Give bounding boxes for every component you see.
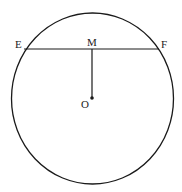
- label-o: O: [81, 98, 89, 110]
- label-m: M: [87, 36, 97, 48]
- label-e: E: [15, 38, 22, 50]
- label-f: F: [161, 38, 167, 50]
- geometry-diagram: E M F O: [0, 0, 182, 192]
- center-point-o: [90, 96, 94, 100]
